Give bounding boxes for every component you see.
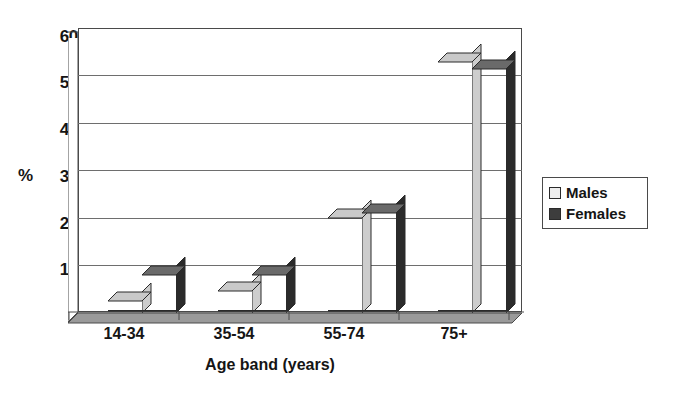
x-tick-label-14-34: 14-34: [69, 326, 179, 342]
chart-canvas: 60 50 40 30 20 10 0 %: [0, 0, 674, 395]
legend-label-females: Females: [566, 206, 626, 221]
x-tick-label-55-74: 55-74: [289, 326, 399, 342]
bar-side-face: [176, 256, 185, 303]
bar-side-face: [286, 256, 295, 303]
x-axis-line: [68, 311, 528, 323]
bar-males-14-34[interactable]: [108, 291, 142, 312]
bar-males-35-54[interactable]: [218, 281, 252, 312]
legend-swatch-females-icon: [549, 208, 561, 220]
bar-males-55-74[interactable]: [328, 208, 362, 312]
y-axis-title: %: [18, 167, 33, 184]
x-tick-label-35-54: 35-54: [179, 326, 289, 342]
bar-females-14-34[interactable]: [142, 265, 176, 312]
x-tick-label-75-plus: 75+: [399, 326, 509, 342]
chart-3d-left-wall: [68, 38, 78, 322]
legend-swatch-males-icon: [549, 187, 561, 199]
legend-item-females[interactable]: Females: [549, 203, 647, 224]
legend[interactable]: Males Females: [542, 177, 648, 229]
legend-label-males: Males: [566, 185, 608, 200]
bar-females-35-54[interactable]: [252, 265, 286, 312]
plot-area: [78, 28, 522, 312]
legend-item-males[interactable]: Males: [549, 182, 647, 203]
bar-females-75-plus[interactable]: [472, 59, 506, 312]
bar-males-75-plus[interactable]: [438, 52, 472, 312]
bar-females-55-74[interactable]: [362, 203, 396, 312]
x-axis-title: Age band (years): [0, 357, 540, 373]
bar-side-face: [506, 50, 515, 303]
